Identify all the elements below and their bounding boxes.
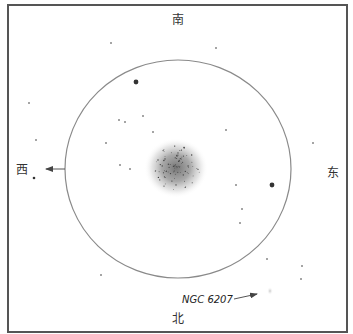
cluster-star xyxy=(168,172,169,173)
star-faint xyxy=(124,121,126,123)
cluster-star xyxy=(171,152,172,153)
direction-west: 西 xyxy=(16,163,28,177)
star-faint xyxy=(266,258,268,260)
cluster-star xyxy=(163,186,164,187)
star-medium xyxy=(33,177,36,180)
cluster-star xyxy=(169,167,170,168)
cluster-star xyxy=(183,174,184,175)
cluster-star xyxy=(176,166,177,167)
cluster-star xyxy=(164,151,165,152)
cluster-star xyxy=(177,152,178,153)
cluster-star xyxy=(160,164,161,165)
direction-south: 南 xyxy=(172,12,184,27)
cluster-star xyxy=(177,155,178,156)
star-faint xyxy=(152,131,154,133)
cluster-star xyxy=(188,173,189,174)
cluster-star xyxy=(179,166,180,167)
cluster-star xyxy=(177,172,178,173)
cluster-star xyxy=(174,145,175,146)
cluster-star xyxy=(174,168,175,169)
cluster-star xyxy=(183,147,184,148)
cluster-star xyxy=(173,171,174,172)
star-faint xyxy=(129,168,131,170)
cluster-star xyxy=(165,177,166,178)
star-faint xyxy=(28,102,30,104)
star-faint xyxy=(312,142,314,144)
star-faint xyxy=(100,274,102,276)
cluster-star xyxy=(176,156,177,157)
cluster-star xyxy=(178,161,179,162)
star-bright xyxy=(134,80,139,85)
star-faint xyxy=(118,119,120,121)
ngc6207-galaxy xyxy=(267,287,273,295)
cluster-star xyxy=(170,164,171,165)
cluster-star xyxy=(157,159,158,160)
cluster-star xyxy=(164,170,165,171)
cluster-star xyxy=(181,150,182,151)
direction-north: 北 xyxy=(172,312,184,326)
cluster-star xyxy=(166,170,167,171)
cluster-star xyxy=(185,186,186,187)
cluster-star xyxy=(163,149,164,150)
cluster-star xyxy=(165,177,166,178)
cluster-star xyxy=(159,179,160,180)
cluster-star xyxy=(186,155,187,156)
cluster-star xyxy=(165,156,166,157)
cluster-star xyxy=(175,184,176,185)
finder-chart: 南 北 西 东 NGC 6207 xyxy=(0,0,353,334)
cluster-star xyxy=(191,162,192,163)
cluster-glow xyxy=(144,138,208,198)
cluster-star xyxy=(163,172,164,173)
cluster-star xyxy=(175,174,176,175)
cluster-star xyxy=(174,178,175,179)
cluster-star xyxy=(185,187,186,188)
star-faint xyxy=(301,265,303,267)
cluster-star xyxy=(170,173,171,174)
cluster-star xyxy=(168,164,169,165)
cluster-star xyxy=(179,150,180,151)
star-faint xyxy=(110,42,112,44)
cluster-star xyxy=(182,162,183,163)
cluster-star xyxy=(183,156,184,157)
cluster-star xyxy=(179,161,180,162)
cluster-star xyxy=(163,160,164,161)
cluster-star xyxy=(174,170,175,171)
star-faint xyxy=(119,164,121,166)
cluster-star xyxy=(191,154,192,155)
cluster-star xyxy=(171,180,172,181)
cluster-star xyxy=(158,177,159,178)
star-faint xyxy=(235,184,237,186)
cluster-star xyxy=(164,158,165,159)
cluster-star xyxy=(178,166,179,167)
cluster-star xyxy=(156,161,157,162)
star-faint xyxy=(35,139,37,141)
cluster-star xyxy=(192,182,193,183)
cluster-star xyxy=(181,157,182,158)
cluster-star xyxy=(162,165,163,166)
star-faint xyxy=(300,278,302,280)
star-faint xyxy=(142,115,144,117)
cluster-star xyxy=(196,168,197,169)
cluster-star xyxy=(176,158,177,159)
cluster-star xyxy=(174,165,175,166)
cluster-star xyxy=(197,169,198,170)
star-faint xyxy=(241,208,243,210)
cluster-star xyxy=(173,189,174,190)
cluster-star xyxy=(165,183,166,184)
direction-east: 东 xyxy=(327,166,339,180)
cluster-star xyxy=(184,181,185,182)
cluster-star xyxy=(185,171,186,172)
globular-cluster xyxy=(144,138,208,198)
cluster-star xyxy=(187,165,188,166)
cluster-star xyxy=(188,167,189,168)
cluster-star xyxy=(175,164,176,165)
cluster-star xyxy=(199,172,200,173)
cluster-star xyxy=(155,170,156,171)
cluster-star xyxy=(180,172,181,173)
cluster-star xyxy=(193,175,194,176)
cluster-star xyxy=(163,150,164,151)
cluster-star xyxy=(181,159,182,160)
cluster-star xyxy=(175,157,176,158)
cluster-star xyxy=(173,165,174,166)
cluster-star xyxy=(181,149,182,150)
